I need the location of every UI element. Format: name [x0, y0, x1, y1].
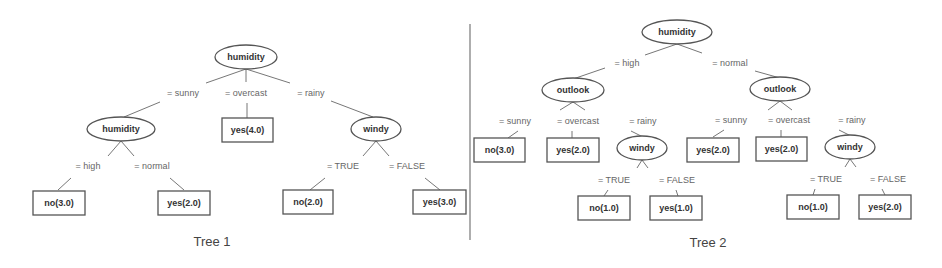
node-label: windy: [362, 124, 389, 134]
tree-2-outlook-left-node: outlook: [542, 78, 604, 102]
tree-2-leaf-no-1-a: no(1.0): [578, 196, 630, 220]
edge-label-rainy: = rainy: [838, 115, 866, 125]
node-label: humidity: [102, 124, 140, 134]
leaf-label: no(1.0): [798, 202, 828, 212]
tree-2-windy-right-node: windy: [825, 135, 875, 159]
edge-label-false: = FALSE: [389, 161, 425, 171]
tree-2-windy-left-node: windy: [617, 136, 667, 160]
tree-2-leaf-yes-1: yes(1.0): [650, 196, 702, 220]
leaf-label: yes(1.0): [659, 203, 693, 213]
edge-label-sunny: = sunny: [499, 116, 531, 126]
tree-2-outlook-right-node: outlook: [750, 77, 810, 101]
edge-label-false: = FALSE: [659, 175, 695, 185]
edge-label-true: = TRUE: [810, 174, 842, 184]
edge-label-rainy: = rainy: [629, 116, 657, 126]
leaf-label: yes(2.0): [167, 198, 201, 208]
tree-2: humidity = high = normal outlook outlook…: [474, 20, 911, 250]
leaf-label: yes(2.0): [556, 145, 590, 155]
leaf-label: no(2.0): [293, 197, 323, 207]
edge-label-sunny: = sunny: [715, 115, 747, 125]
edge-label-overcast: = overcast: [557, 116, 599, 126]
tree-1: humidity = sunny = overcast = rainy humi…: [33, 45, 466, 249]
node-label: humidity: [658, 27, 696, 37]
edge-label-high: = high: [615, 58, 640, 68]
edge-label-true: = TRUE: [327, 161, 359, 171]
leaf-label: yes(2.0): [868, 202, 902, 212]
tree-1-leaf-yes-3: yes(3.0): [413, 190, 466, 214]
node-label: windy: [628, 143, 655, 153]
tree-1-caption: Tree 1: [193, 234, 230, 249]
edge-label-rainy: = rainy: [297, 88, 325, 98]
tree-1-leaf-no-2: no(2.0): [283, 190, 333, 214]
node-label: humidity: [227, 52, 265, 62]
leaf-label: no(1.0): [589, 203, 619, 213]
edge-label-normal: = normal: [134, 161, 169, 171]
tree-1-root-node: humidity: [215, 45, 277, 69]
edge-label-true: = TRUE: [598, 175, 630, 185]
node-label: outlook: [557, 85, 590, 95]
node-label: windy: [836, 142, 863, 152]
tree-2-leaf-yes-2-a: yes(2.0): [547, 138, 599, 162]
tree-2-leaf-yes-2-b: yes(2.0): [687, 138, 739, 162]
edge-label-normal: = normal: [712, 58, 747, 68]
edge-label-false: = FALSE: [870, 174, 906, 184]
tree-2-caption: Tree 2: [689, 235, 726, 250]
tree-2-leaf-yes-2-c: yes(2.0): [756, 137, 807, 161]
edge-label-overcast: = overcast: [768, 115, 810, 125]
tree-2-root-node: humidity: [642, 20, 712, 44]
node-label: outlook: [764, 84, 797, 94]
edge-label-high: = high: [76, 161, 101, 171]
leaf-label: yes(4.0): [231, 125, 265, 135]
leaf-label: no(3.0): [485, 145, 515, 155]
tree-2-leaf-no-3: no(3.0): [474, 138, 525, 162]
tree-1-humidity-node: humidity: [87, 117, 155, 141]
edge-label-overcast: = overcast: [225, 88, 267, 98]
tree-1-windy-node: windy: [351, 117, 401, 141]
leaf-label: yes(2.0): [696, 145, 730, 155]
leaf-label: yes(2.0): [765, 144, 799, 154]
tree-1-leaf-no-3: no(3.0): [33, 191, 85, 215]
edge-label-sunny: = sunny: [167, 88, 199, 98]
leaf-label: no(3.0): [44, 198, 74, 208]
leaf-label: yes(3.0): [423, 197, 457, 207]
tree-2-leaf-no-1-b: no(1.0): [787, 195, 839, 219]
tree-1-leaf-yes-4: yes(4.0): [222, 118, 273, 142]
tree-2-leaf-yes-2-d: yes(2.0): [859, 195, 911, 219]
tree-1-leaf-yes-2: yes(2.0): [158, 191, 210, 215]
decision-trees-diagram: humidity = sunny = overcast = rainy humi…: [0, 0, 942, 268]
